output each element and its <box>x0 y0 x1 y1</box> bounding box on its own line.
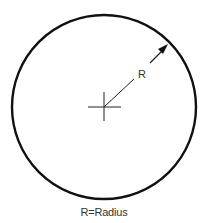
radius-line <box>104 79 134 107</box>
circle-diagram: R <box>0 0 212 223</box>
arrowhead-icon <box>158 44 168 54</box>
caption: R=Radius <box>0 206 208 218</box>
radius-label: R <box>138 68 146 80</box>
